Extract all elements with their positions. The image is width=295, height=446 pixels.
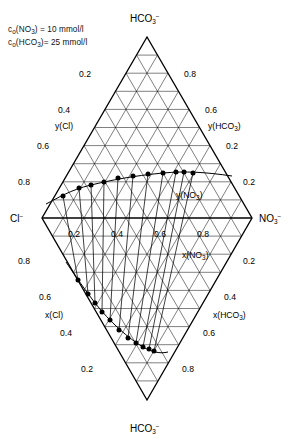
x-phase-curve [66,262,168,353]
axis-label-x-cl: x(Cl) [45,310,63,320]
tick-lower-left-1: 0.6 [39,292,51,302]
tie-lines [63,172,193,351]
ternary-diagram-svg: co(NO3) = 10 mmol/l co(HCO3)= 25 mmol/l … [0,0,295,446]
tick-upper-right-0: 0.8 [184,69,196,79]
tick-middle-2: 0.6 [154,229,166,239]
axis-label-y-hco3: y(HCO3) [208,121,241,132]
tick-lower-left-0: 0.8 [18,256,30,266]
tick-lower-right-1: 0.4 [224,292,236,302]
tick-middle-0: 0.2 [68,229,80,239]
legend-line-1: co(NO3) = 10 mmol/l [8,25,84,35]
tick-middle-3: 0.8 [197,229,209,239]
ternary-diagram-root: co(NO3) = 10 mmol/l co(HCO3)= 25 mmol/l … [0,0,295,446]
lower-triangle-grid [53,218,242,381]
axis-label-y-no3: y(NO3) [176,190,203,201]
legend-block: co(NO3) = 10 mmol/l co(HCO3)= 25 mmol/l [8,25,87,48]
vertex-label-left: Cl− [10,213,23,224]
tick-upper-right-3: 0.2 [243,177,255,187]
tick-lower-right-3: 0.8 [182,364,194,374]
tick-upper-left-3: 0.8 [18,177,30,187]
vertex-labels: HCO3− Cl− NO3− HCO3− [10,13,282,435]
middle-tick-labels: 0.2 0.4 0.6 0.8 [68,229,209,239]
vertex-label-bottom: HCO3− [130,423,160,435]
tick-lower-right-0: 0.2 [243,256,255,266]
vertex-label-top: HCO3− [130,13,160,25]
upper-triangle-grid [53,55,242,218]
axis-label-x-hco3: x(HCO3) [213,310,246,321]
tick-upper-right-1: 0.6 [205,105,217,115]
axis-label-y-cl: y(Cl) [55,121,73,131]
tick-lower-left-3: 0.2 [81,364,93,374]
tick-middle-1: 0.4 [111,229,123,239]
tick-lower-right-2: 0.6 [203,328,215,338]
tick-upper-left-2: 0.6 [37,141,49,151]
vertex-label-right: NO3− [259,213,282,225]
tick-upper-right-2: 0.2 [226,141,238,151]
legend-line-2: co(HCO3)= 25 mmol/l [8,38,87,48]
tick-lower-left-2: 0.4 [60,328,72,338]
tick-upper-left-1: 0.4 [58,105,70,115]
axis-label-x-no3: x(NO3) [182,250,209,261]
tick-upper-left-0: 0.2 [79,69,91,79]
